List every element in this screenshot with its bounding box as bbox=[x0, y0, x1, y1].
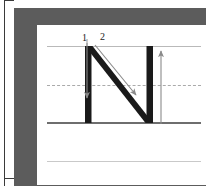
stroke-number-2: 2 bbox=[100, 32, 105, 42]
letter-stroke-right-vertical bbox=[147, 46, 154, 123]
page-edge-top-rule bbox=[4, 0, 14, 1]
writing-card: 1 2 bbox=[37, 25, 206, 185]
worksheet-frame: 1 2 bbox=[14, 8, 206, 186]
letter-stroke-diagonal bbox=[85, 46, 153, 123]
worksheet-page: 1 2 bbox=[0, 0, 206, 186]
letter-glyph-layer: 1 2 bbox=[37, 25, 206, 185]
stroke-2-direction-arrow bbox=[95, 45, 136, 95]
letter-stroke-left-vertical bbox=[85, 46, 92, 123]
page-edge-left-rule bbox=[4, 0, 5, 186]
stroke-number-1: 1 bbox=[82, 33, 87, 43]
page-edge-bottom-rule bbox=[4, 178, 14, 179]
letter-n-stroke-diagram bbox=[37, 25, 206, 185]
